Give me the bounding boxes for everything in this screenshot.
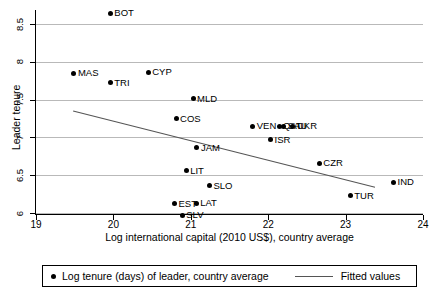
data-point-label: LAT bbox=[200, 198, 217, 208]
y-tick-label-wrap: 8.5 bbox=[12, 10, 28, 38]
data-point bbox=[281, 124, 286, 129]
gridline-y bbox=[36, 137, 423, 138]
data-point bbox=[191, 96, 196, 101]
x-tick-label: 24 bbox=[408, 219, 433, 230]
y-tick bbox=[30, 175, 36, 176]
data-point bbox=[391, 180, 396, 185]
legend-entry-scatter: Log tenure (days) of leader, country ave… bbox=[43, 270, 269, 282]
data-point bbox=[348, 193, 353, 198]
y-tick-label: 6 bbox=[14, 210, 25, 215]
data-point-label: JAM bbox=[201, 143, 220, 153]
data-point bbox=[194, 145, 199, 150]
data-point bbox=[250, 124, 255, 129]
chart-legend: Log tenure (days) of leader, country ave… bbox=[42, 265, 417, 287]
data-point bbox=[207, 183, 212, 188]
data-point-label: ISR bbox=[275, 135, 291, 145]
data-point bbox=[268, 137, 273, 142]
data-point-label: CZR bbox=[323, 158, 343, 168]
y-tick-label: 8.5 bbox=[15, 17, 26, 30]
data-point bbox=[194, 201, 199, 206]
x-tick-label: 23 bbox=[331, 219, 361, 230]
data-point-label: IND bbox=[398, 177, 414, 187]
data-point bbox=[108, 80, 113, 85]
y-tick-label-wrap: 6.5 bbox=[12, 161, 28, 189]
gridline-y bbox=[36, 100, 423, 101]
y-tick bbox=[30, 62, 36, 63]
data-point bbox=[172, 201, 177, 206]
data-point bbox=[71, 71, 76, 76]
data-point-label: UKR bbox=[297, 121, 317, 131]
legend-label-scatter: Log tenure (days) of leader, country ave… bbox=[62, 270, 269, 282]
y-tick-label: 8 bbox=[14, 59, 25, 64]
data-point bbox=[184, 168, 189, 173]
gridline-y bbox=[36, 24, 423, 25]
y-tick-label: 6.5 bbox=[15, 169, 26, 182]
y-tick bbox=[30, 137, 36, 138]
data-point-label: TUR bbox=[354, 191, 374, 201]
data-point-label: LIT bbox=[190, 166, 204, 176]
x-tick-label: 20 bbox=[98, 219, 128, 230]
y-tick bbox=[30, 100, 36, 101]
x-axis-line bbox=[35, 214, 423, 215]
data-point-label: TRI bbox=[114, 78, 129, 88]
data-point-label: BOT bbox=[114, 8, 134, 18]
data-point bbox=[180, 213, 185, 218]
x-tick-label: 21 bbox=[176, 219, 206, 230]
legend-label-fitted: Fitted values bbox=[341, 270, 401, 282]
data-point bbox=[317, 161, 322, 166]
legend-marker-dot-icon bbox=[51, 274, 56, 279]
data-point bbox=[108, 11, 113, 16]
gridline-y bbox=[36, 175, 423, 176]
data-point bbox=[174, 116, 179, 121]
data-point-label: SLO bbox=[213, 181, 232, 191]
data-point-label: COS bbox=[180, 114, 201, 124]
data-point-label: MAS bbox=[78, 68, 99, 78]
y-tick bbox=[30, 213, 36, 214]
legend-marker-line-icon bbox=[295, 276, 333, 277]
gridline-y bbox=[36, 62, 423, 63]
data-point-label: CYP bbox=[152, 67, 172, 77]
x-axis-title: Log international capital (2010 US$), co… bbox=[36, 231, 423, 243]
y-tick-label-wrap: 8 bbox=[12, 48, 28, 76]
legend-entry-fitted: Fitted values bbox=[269, 270, 401, 282]
data-point-label: MLD bbox=[197, 94, 217, 104]
data-point-label: SLV bbox=[186, 210, 203, 220]
y-axis-line bbox=[35, 10, 36, 215]
data-point-label: VEN bbox=[257, 121, 277, 131]
y-axis-title-text: Leader tenure bbox=[10, 85, 22, 150]
y-tick bbox=[30, 24, 36, 25]
x-tick-label: 22 bbox=[253, 219, 283, 230]
data-point bbox=[146, 70, 151, 75]
x-tick-label: 19 bbox=[21, 219, 51, 230]
